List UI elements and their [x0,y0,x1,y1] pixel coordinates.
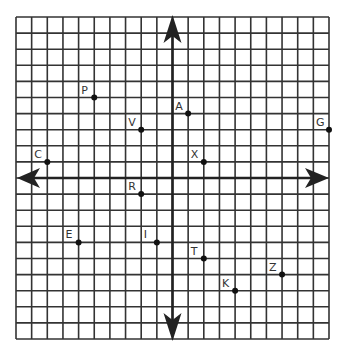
point-label: T [190,245,198,258]
point-label: K [222,277,230,290]
point-dot [185,111,191,117]
point-dot [326,127,332,133]
point-label: C [34,148,42,161]
point-dot [279,272,285,278]
point-dot [138,191,144,197]
point-dot [138,127,144,133]
point-label: Z [269,261,277,274]
point-label: R [128,180,136,193]
point-label: V [128,116,136,129]
point-dot [201,256,207,262]
point-dot [232,288,238,294]
coordinate-plane: PVAGCXREITZK [0,0,343,354]
point-label: E [66,228,73,241]
point-label: G [316,116,325,129]
point-label: X [191,148,199,161]
point-dot [76,239,82,245]
point-label: P [81,84,88,97]
point-dot [154,239,160,245]
point-dot [201,159,207,165]
point-label: A [175,100,183,113]
point-dot [44,159,50,165]
point-label: I [144,228,147,241]
point-dot [91,95,97,101]
